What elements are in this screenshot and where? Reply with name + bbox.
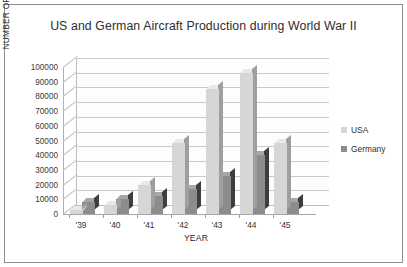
x-axis-tick-label: '44 [234,220,268,230]
bar-group [239,58,273,214]
x-axis-tick-mark [69,215,70,218]
bar-usa-44 [240,73,253,214]
x-axis-label: YEAR [63,233,329,243]
bar-group [103,58,137,214]
chart-legend: USAGermany [341,125,403,163]
chart-title: US and German Aircraft Production during… [5,19,402,33]
legend-label: USA [351,125,368,135]
y-axis-tick-label: 70000 [35,107,58,116]
x-axis-tick-mark [171,215,172,218]
x-axis-tick-label: '43 [200,220,234,230]
bar-front-face [240,73,253,214]
legend-label: Germany [351,144,385,154]
y-axis-tick-label: 90000 [35,77,58,86]
bar-group [69,58,103,214]
bar-group [171,58,205,214]
y-axis-tick-label: 30000 [35,165,58,174]
y-axis-tick-label: 40000 [35,151,58,160]
x-axis-tick-mark [103,215,104,218]
bar-usa-41 [138,185,151,214]
y-axis-tick-label: 50000 [35,136,58,145]
bar-usa-39 [70,210,83,214]
x-axis-tick-mark [137,215,138,218]
x-axis-tick-mark [239,215,240,218]
plot-area: 1000009000080000700006000050000400003000… [63,58,329,214]
x-axis-tick-mark [205,215,206,218]
bar-usa-40 [104,205,117,214]
x-axis-tick-label: '40 [98,220,132,230]
bar-front-face [138,185,151,214]
x-axis-tick-label: '42 [166,220,200,230]
y-axis-tick-label: 100000 [31,63,58,72]
bar-front-face [206,89,219,214]
bar-front-face [172,143,185,214]
y-axis-tick-label: 60000 [35,121,58,130]
y-axis-tick-label: 10000 [35,195,58,204]
y-axis-label: NUMBER OF UNITS PRODUCED [1,0,11,53]
bar-group [137,58,171,214]
bar-group [273,58,307,214]
y-axis-tick-label: 20000 [35,180,58,189]
x-axis-tick-label: '41 [132,220,166,230]
bar-usa-43 [206,89,219,214]
bar-front-face [274,143,287,214]
bar-front-face [104,205,117,214]
legend-item-germany[interactable]: Germany [341,144,403,154]
x-axis-tick-label: '45 [268,220,302,230]
bar-series-group [63,58,329,215]
y-axis-tick-label: 80000 [35,92,58,101]
legend-swatch-icon [341,127,347,133]
x-axis-tick-label: '39 [64,220,98,230]
bar-usa-42 [172,143,185,214]
y-axis-tick-label: 0 [53,210,58,219]
bar-front-face [70,210,83,214]
chart-container: US and German Aircraft Production during… [4,4,403,263]
legend-item-usa[interactable]: USA [341,125,403,135]
bar-usa-45 [274,143,287,214]
x-axis-tick-mark [273,215,274,218]
legend-swatch-icon [341,146,347,152]
bar-group [205,58,239,214]
